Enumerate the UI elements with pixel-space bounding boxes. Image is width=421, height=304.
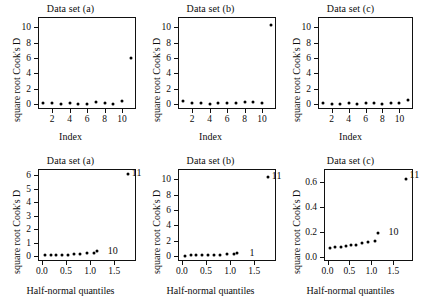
- y-tick-label: 10: [138, 174, 171, 184]
- y-tick: [174, 73, 178, 74]
- data-point: [66, 253, 69, 256]
- y-tick-label: 4: [138, 220, 171, 230]
- data-point: [112, 102, 115, 105]
- data-point: [201, 253, 204, 256]
- data-point: [355, 243, 358, 246]
- y-tick: [34, 58, 38, 59]
- data-point: [243, 101, 246, 104]
- data-point: [356, 102, 359, 105]
- panel-top-b: Data set (b) square root Cook's D Index …: [140, 0, 281, 152]
- x-axis-title: Index: [280, 131, 421, 142]
- data-point: [93, 251, 96, 254]
- panel-title: Data set (b): [140, 3, 281, 14]
- y-tick: [174, 210, 178, 211]
- x-tick: [262, 109, 263, 113]
- x-tick-label: 8: [102, 114, 107, 124]
- data-point: [79, 252, 82, 255]
- figure-cooks-distance-panels: Data set (a) square root Cook's D Index …: [0, 0, 421, 304]
- x-tick: [114, 261, 115, 265]
- x-tick-label: 2: [50, 114, 55, 124]
- data-point: [55, 254, 58, 257]
- data-point: [182, 100, 185, 103]
- plot-area: [318, 17, 413, 109]
- data-point: [344, 244, 347, 247]
- data-point: [129, 56, 132, 59]
- x-tick: [42, 261, 43, 265]
- data-point: [51, 101, 54, 104]
- y-tick: [174, 104, 178, 105]
- y-tick: [174, 27, 178, 28]
- data-point: [252, 101, 255, 104]
- x-tick: [371, 261, 372, 265]
- y-tick-label: 0: [0, 251, 31, 261]
- data-point: [212, 253, 215, 256]
- y-tick: [320, 182, 324, 183]
- y-tick: [314, 43, 318, 44]
- y-tick: [34, 27, 38, 28]
- x-tick: [182, 261, 183, 265]
- x-tick-label: 2: [329, 114, 334, 124]
- x-tick-label: 1.0: [224, 266, 236, 276]
- y-tick: [34, 43, 38, 44]
- y-tick-label: 6: [138, 205, 171, 215]
- y-tick: [34, 229, 38, 230]
- y-tick: [174, 256, 178, 257]
- y-tick-label: 10: [0, 22, 31, 32]
- data-point: [261, 101, 264, 104]
- x-tick: [332, 109, 333, 113]
- x-tick: [349, 109, 350, 113]
- y-tick-label: 4: [278, 68, 311, 78]
- x-tick: [366, 109, 367, 113]
- data-point: [225, 253, 228, 256]
- point-annotation: 10: [108, 245, 118, 256]
- x-tick: [349, 261, 350, 265]
- data-point: [77, 102, 80, 105]
- y-tick-label: 2: [278, 84, 311, 94]
- data-point: [334, 246, 337, 249]
- y-tick: [34, 243, 38, 244]
- plot-area: [178, 169, 276, 261]
- data-point: [381, 102, 384, 105]
- data-point: [361, 242, 364, 245]
- data-point: [103, 101, 106, 104]
- y-tick: [320, 257, 324, 258]
- data-point: [347, 102, 350, 105]
- x-tick-label: 4: [207, 114, 212, 124]
- panel-title: Data set (b): [140, 155, 281, 166]
- data-point: [61, 253, 64, 256]
- x-axis-title: Index: [0, 131, 141, 142]
- point-annotation: 11: [410, 169, 420, 180]
- x-tick: [393, 261, 394, 265]
- y-tick-label: 8: [0, 38, 31, 48]
- data-point: [183, 254, 186, 257]
- data-point: [398, 101, 401, 104]
- y-tick: [174, 58, 178, 59]
- y-tick-label: 2: [0, 224, 31, 234]
- y-tick-label: 6: [0, 170, 31, 180]
- x-tick: [66, 261, 67, 265]
- y-tick: [34, 73, 38, 74]
- data-point: [389, 102, 392, 105]
- data-point: [85, 252, 88, 255]
- y-tick-label: 4: [0, 68, 31, 78]
- x-tick-label: 2: [190, 114, 195, 124]
- x-tick: [399, 109, 400, 113]
- x-tick-label: 10: [395, 114, 405, 124]
- x-tick-label: 10: [257, 114, 267, 124]
- panel-bottom-a: Data set (a) square root Cook's D Half-n…: [0, 152, 141, 304]
- y-tick-label: 6: [138, 53, 171, 63]
- panel-title: Data set (a): [0, 3, 141, 14]
- y-tick: [174, 195, 178, 196]
- y-tick: [34, 104, 38, 105]
- data-point: [404, 178, 407, 181]
- y-tick: [174, 89, 178, 90]
- y-tick-label: 10: [278, 22, 311, 32]
- data-point: [42, 102, 45, 105]
- y-tick-label: 4: [0, 197, 31, 207]
- x-axis-title: Half-normal quantiles: [280, 285, 421, 296]
- x-axis-title: Half-normal quantiles: [140, 285, 281, 296]
- y-tick: [174, 179, 178, 180]
- x-tick: [210, 109, 211, 113]
- x-tick-label: 4: [346, 114, 351, 124]
- data-point: [206, 253, 209, 256]
